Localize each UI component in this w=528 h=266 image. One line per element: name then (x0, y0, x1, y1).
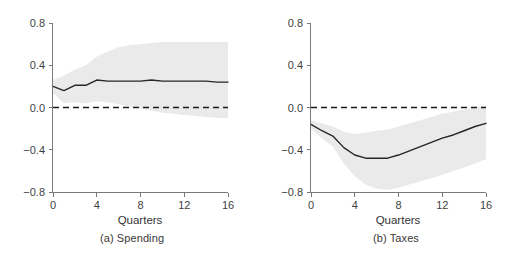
chart-svg-taxes: 0.80.40.0−0.4−0.8 0481216 Quarters (264, 0, 528, 232)
x-ticks-spending: 0481216 (50, 193, 234, 212)
panel-caption-spending: (a) Spending (0, 232, 264, 244)
y-tick-label: 0.8 (288, 17, 303, 29)
x-ticks-taxes: 0481216 (308, 193, 492, 212)
x-tick-label: 8 (395, 199, 401, 211)
y-tick-label: 0.0 (30, 102, 45, 114)
panel-caption-taxes: (b) Taxes (264, 232, 528, 244)
panel-spending: 0.80.40.0−0.4−0.8 0481216 Quarters (a) S… (0, 0, 264, 266)
panel-taxes: 0.80.40.0−0.4−0.8 0481216 Quarters (b) T… (264, 0, 528, 266)
x-tick-label: 16 (480, 199, 492, 211)
impulse-response-figure: 0.80.40.0−0.4−0.8 0481216 Quarters (a) S… (0, 0, 528, 266)
y-tick-label: −0.4 (23, 144, 45, 156)
x-axis-title-spending: Quarters (118, 214, 163, 226)
confidence-band-taxes (311, 105, 486, 190)
y-tick-label: 0.8 (30, 17, 45, 29)
chart-svg-spending: 0.80.40.0−0.4−0.8 0481216 Quarters (0, 0, 264, 232)
x-tick-label: 12 (436, 199, 448, 211)
x-tick-label: 4 (352, 199, 358, 211)
x-tick-label: 16 (222, 199, 234, 211)
plot-area-spending (53, 42, 228, 118)
y-tick-label: 0.4 (288, 59, 303, 71)
x-tick-label: 4 (94, 199, 100, 211)
y-ticks-spending: 0.80.40.0−0.4−0.8 (23, 17, 52, 198)
y-tick-label: −0.8 (281, 186, 303, 198)
x-tick-label: 8 (137, 199, 143, 211)
y-tick-label: 0.4 (30, 59, 45, 71)
plot-area-taxes (311, 105, 486, 190)
y-tick-label: 0.0 (288, 102, 303, 114)
x-tick-label: 12 (178, 199, 190, 211)
y-tick-label: −0.8 (23, 186, 45, 198)
confidence-band-spending (53, 42, 228, 118)
y-ticks-taxes: 0.80.40.0−0.4−0.8 (281, 17, 310, 198)
x-tick-label: 0 (308, 199, 314, 211)
x-axis-title-taxes: Quarters (376, 214, 421, 226)
y-tick-label: −0.4 (281, 144, 303, 156)
x-tick-label: 0 (50, 199, 56, 211)
